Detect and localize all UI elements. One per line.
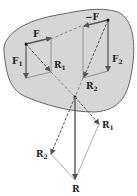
- force-diagram: F −F F1 F2 R1 R2 R1 R2 R: [0, 0, 137, 196]
- label-r2-outside: R2: [36, 149, 48, 160]
- diagram-canvas: F −F F1 F2 R1 R2 R1 R2 R: [0, 0, 137, 196]
- point-b: [107, 19, 110, 22]
- construction-line: [51, 154, 75, 180]
- label-neg-f: −F: [85, 12, 100, 22]
- label-f: F: [33, 29, 40, 39]
- label-r: R: [72, 184, 80, 194]
- point-a: [25, 43, 28, 46]
- label-r1-outside: R1: [102, 120, 114, 131]
- construction-line: [75, 124, 99, 180]
